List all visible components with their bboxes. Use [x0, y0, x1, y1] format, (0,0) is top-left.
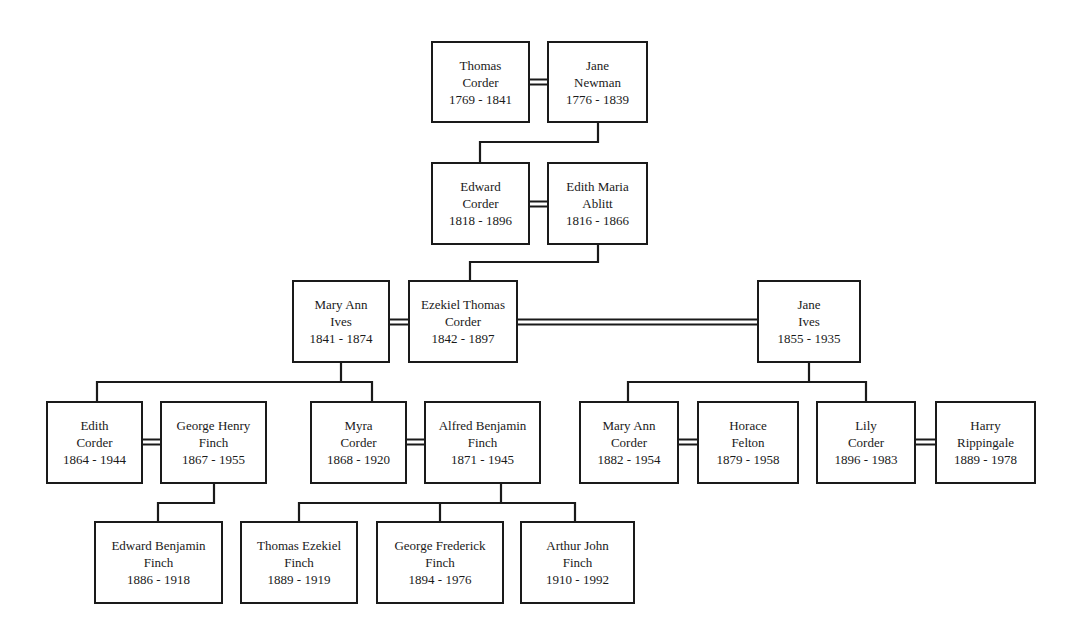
descent-line — [480, 123, 598, 162]
person-first-names: George Frederick — [394, 537, 485, 554]
person-lifespan: 1896 - 1983 — [835, 451, 898, 468]
person-edward-corder: Edward Corder 1818 - 1896 — [431, 162, 530, 245]
person-first-names: Edith Maria — [566, 178, 628, 195]
person-lifespan: 1879 - 1958 — [717, 451, 780, 468]
person-surname: Ives — [798, 313, 820, 330]
descent-line — [628, 363, 809, 401]
person-lifespan: 1769 - 1841 — [449, 91, 512, 108]
person-surname: Corder — [445, 313, 481, 330]
person-lifespan: 1841 - 1874 — [310, 330, 373, 347]
person-thomas-corder: Thomas Corder 1769 - 1841 — [431, 41, 530, 123]
person-first-names: Thomas Ezekiel — [257, 537, 341, 554]
person-first-names: Mary Ann — [314, 296, 367, 313]
person-surname: Felton — [731, 434, 764, 451]
descent-line — [501, 503, 575, 521]
person-arthur-john-finch: Arthur John Finch 1910 - 1992 — [520, 521, 635, 604]
person-jane-newman: Jane Newman 1776 - 1839 — [547, 41, 648, 123]
person-surname: Finch — [284, 554, 314, 571]
person-lily-corder: Lily Corder 1896 - 1983 — [816, 401, 916, 484]
person-lifespan: 1889 - 1919 — [268, 571, 331, 588]
person-first-names: Mary Ann — [602, 417, 655, 434]
person-edith-corder: Edith Corder 1864 - 1944 — [46, 401, 143, 484]
person-first-names: Jane — [797, 296, 820, 313]
person-lifespan: 1842 - 1897 — [432, 330, 495, 347]
person-surname: Finch — [199, 434, 229, 451]
person-horace-felton: Horace Felton 1879 - 1958 — [697, 401, 799, 484]
person-lifespan: 1868 - 1920 — [327, 451, 390, 468]
person-first-names: Edith — [80, 417, 108, 434]
person-first-names: Myra — [344, 417, 372, 434]
person-lifespan: 1864 - 1944 — [63, 451, 126, 468]
person-lifespan: 1776 - 1839 — [566, 91, 629, 108]
person-surname: Rippingale — [957, 434, 1014, 451]
person-first-names: Ezekiel Thomas — [421, 296, 505, 313]
person-ezekiel-thomas-corder: Ezekiel Thomas Corder 1842 - 1897 — [408, 280, 518, 363]
person-mary-ann-ives: Mary Ann Ives 1841 - 1874 — [292, 280, 390, 363]
person-surname: Ives — [330, 313, 352, 330]
person-george-frederick-finch: George Frederick Finch 1894 - 1976 — [376, 521, 504, 604]
descent-line — [341, 382, 372, 401]
descent-line — [299, 484, 501, 521]
person-mary-ann-corder: Mary Ann Corder 1882 - 1954 — [579, 401, 679, 484]
person-surname: Corder — [76, 434, 112, 451]
person-surname: Corder — [462, 74, 498, 91]
person-surname: Newman — [574, 74, 621, 91]
person-first-names: Horace — [729, 417, 767, 434]
person-first-names: Thomas — [460, 57, 502, 74]
person-first-names: Edward — [460, 178, 500, 195]
descent-line — [809, 382, 866, 401]
person-surname: Finch — [468, 434, 498, 451]
person-alfred-benjamin-finch: Alfred Benjamin Finch 1871 - 1945 — [424, 401, 541, 484]
person-myra-corder: Myra Corder 1868 - 1920 — [310, 401, 407, 484]
person-lifespan: 1818 - 1896 — [449, 212, 512, 229]
person-surname: Finch — [425, 554, 455, 571]
person-first-names: George Henry — [177, 417, 251, 434]
descent-line — [470, 245, 598, 280]
person-lifespan: 1889 - 1978 — [954, 451, 1017, 468]
descent-line — [97, 363, 341, 401]
person-first-names: Edward Benjamin — [111, 537, 205, 554]
person-first-names: Arthur John — [546, 537, 608, 554]
person-george-henry-finch: George Henry Finch 1867 - 1955 — [160, 401, 267, 484]
person-surname: Corder — [462, 195, 498, 212]
person-thomas-ezekiel-finch: Thomas Ezekiel Finch 1889 - 1919 — [240, 521, 358, 604]
person-surname: Corder — [611, 434, 647, 451]
family-tree-diagram: Thomas Corder 1769 - 1841 Jane Newman 17… — [0, 0, 1078, 637]
person-first-names: Alfred Benjamin — [439, 417, 527, 434]
person-harry-rippingale: Harry Rippingale 1889 - 1978 — [935, 401, 1036, 484]
person-lifespan: 1886 - 1918 — [127, 571, 190, 588]
person-lifespan: 1855 - 1935 — [778, 330, 841, 347]
person-surname: Corder — [340, 434, 376, 451]
person-lifespan: 1882 - 1954 — [598, 451, 661, 468]
person-surname: Corder — [848, 434, 884, 451]
person-first-names: Jane — [586, 57, 609, 74]
person-surname: Finch — [563, 554, 593, 571]
person-edward-benjamin-finch: Edward Benjamin Finch 1886 - 1918 — [94, 521, 223, 604]
person-lifespan: 1867 - 1955 — [182, 451, 245, 468]
person-lifespan: 1816 - 1866 — [566, 212, 629, 229]
person-first-names: Harry — [970, 417, 1000, 434]
person-lifespan: 1910 - 1992 — [546, 571, 609, 588]
person-surname: Ablitt — [582, 195, 612, 212]
person-jane-ives: Jane Ives 1855 - 1935 — [757, 280, 861, 363]
person-lifespan: 1871 - 1945 — [451, 451, 514, 468]
descent-line — [158, 484, 214, 521]
person-first-names: Lily — [855, 417, 877, 434]
person-surname: Finch — [144, 554, 174, 571]
person-edith-maria-ablitt: Edith Maria Ablitt 1816 - 1866 — [547, 162, 648, 245]
person-lifespan: 1894 - 1976 — [409, 571, 472, 588]
